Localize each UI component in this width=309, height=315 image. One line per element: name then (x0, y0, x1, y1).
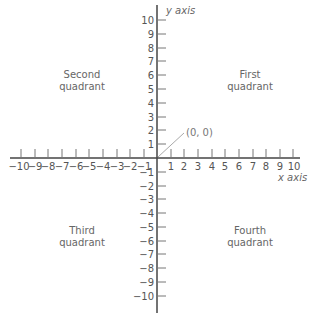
y-tick-label: 6 (148, 70, 154, 81)
quadrant-label-line1: First (210, 69, 290, 81)
x-tick-label: −8 (41, 161, 56, 172)
y-tick-label: −8 (139, 263, 154, 274)
x-tick-label: 5 (222, 161, 228, 172)
coordinate-plane: −10 −9 −8 −7 −6 −5 −4 −3 −2 −1 1 2 3 4 5… (0, 0, 309, 315)
y-tick-label: 10 (141, 15, 154, 26)
fourth-quadrant-label: Fourth quadrant (210, 225, 290, 249)
x-tick-label: 1 (168, 161, 174, 172)
y-tick-label: −2 (139, 181, 154, 192)
y-tick-label: −3 (139, 194, 154, 205)
quadrant-label-line2: quadrant (210, 81, 290, 93)
y-axis-positive-labels: 1 2 3 4 5 6 7 8 9 10 (141, 15, 154, 150)
y-tick-label: 2 (148, 125, 154, 136)
y-tick-label: −9 (139, 277, 154, 288)
x-tick-label: −5 (82, 161, 97, 172)
y-tick-label: 7 (148, 56, 154, 67)
y-tick-label: −10 (133, 291, 154, 302)
y-tick-label: −5 (139, 222, 154, 233)
x-axis-positive-labels: 1 2 3 4 5 6 7 8 9 10 (168, 161, 301, 172)
x-tick-label: −4 (96, 161, 111, 172)
quadrant-label-line2: quadrant (210, 237, 290, 249)
quadrant-label-line1: Fourth (210, 225, 290, 237)
first-quadrant-label: First quadrant (210, 69, 290, 93)
x-tick-label: 7 (250, 161, 256, 172)
x-tick-label: −2 (123, 161, 138, 172)
x-axis-negative-labels: −10 −9 −8 −7 −6 −5 −4 −3 −2 −1 (8, 161, 151, 172)
y-tick-label: 1 (148, 139, 154, 150)
x-tick-label: 4 (209, 161, 215, 172)
third-quadrant-label: Third quadrant (42, 225, 122, 249)
y-tick-label: −7 (139, 249, 154, 260)
x-tick-label: 6 (236, 161, 242, 172)
x-tick-label: 2 (181, 161, 187, 172)
y-tick-label: 9 (148, 29, 154, 40)
y-tick-label: 4 (148, 98, 154, 109)
x-tick-label: −10 (8, 161, 29, 172)
y-tick-label: 3 (148, 112, 154, 123)
x-tick-label: 9 (277, 161, 283, 172)
quadrant-label-line1: Second (42, 69, 122, 81)
y-tick-label: −4 (139, 208, 154, 219)
x-tick-label: 10 (288, 161, 301, 172)
x-tick-label: −7 (55, 161, 70, 172)
x-axis-title: x axis (277, 172, 307, 183)
y-tick-label: 8 (148, 43, 154, 54)
second-quadrant-label: Second quadrant (42, 69, 122, 93)
x-tick-label: 3 (195, 161, 201, 172)
quadrant-label-line2: quadrant (42, 237, 122, 249)
y-axis-title: y axis (165, 5, 195, 16)
quadrant-label-line1: Third (42, 225, 122, 237)
quadrant-label-line2: quadrant (42, 81, 122, 93)
x-tick-label: 8 (263, 161, 269, 172)
y-tick-label: −1 (139, 167, 154, 178)
origin-label: (0, 0) (186, 127, 213, 138)
y-tick-label: −6 (139, 236, 154, 247)
y-tick-label: 5 (148, 84, 154, 95)
y-axis-negative-labels: −1 −2 −3 −4 −5 −6 −7 −8 −9 −10 (133, 167, 154, 302)
